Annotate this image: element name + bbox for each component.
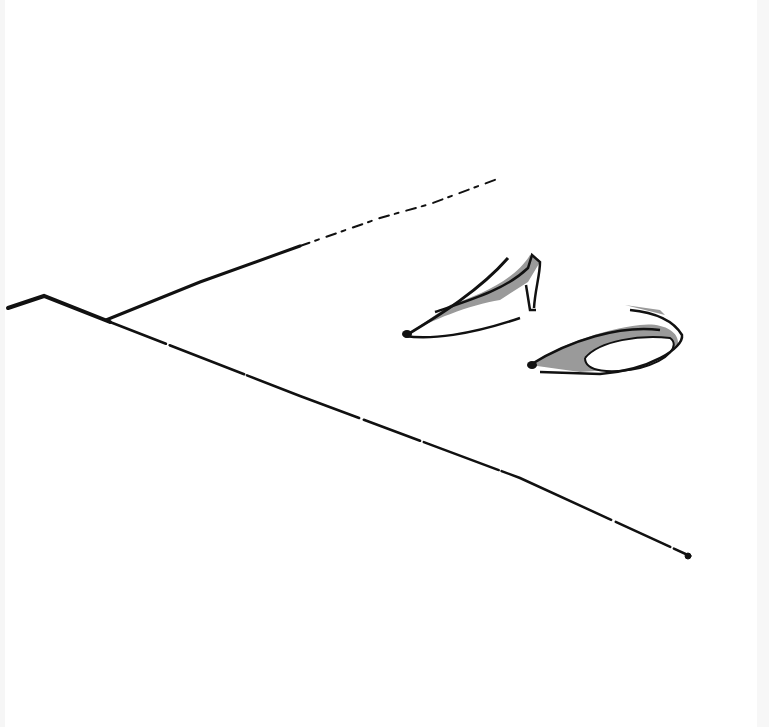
right-shoe (527, 305, 682, 374)
sketch (0, 0, 769, 727)
illustration-canvas (0, 0, 769, 727)
left-shoe (402, 255, 540, 338)
